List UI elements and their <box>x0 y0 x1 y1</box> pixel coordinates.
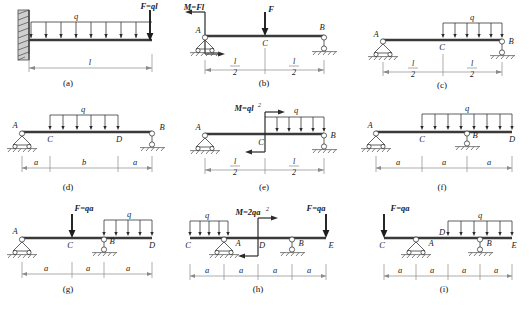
load-label-q: q <box>478 210 483 220</box>
panel-caption-b: (b) <box>244 78 284 88</box>
node-label-A: A <box>372 29 379 39</box>
dimension-label-a1: a <box>396 157 400 167</box>
load-label-q: q <box>205 210 210 220</box>
dimension-label-a4: a <box>494 265 498 275</box>
dimension-label-a3: a <box>487 157 491 167</box>
node-label-E: E <box>327 240 334 250</box>
node-label-B: B <box>486 238 491 248</box>
panel-caption-d: (d) <box>48 182 88 192</box>
panel-i: F=qa C q <box>354 196 529 294</box>
panel-d: q A C D <box>0 100 176 190</box>
dimension-label-a1: a <box>398 265 402 275</box>
node-label-B: B <box>319 22 324 32</box>
svg-text:2: 2 <box>233 168 237 177</box>
svg-text:2: 2 <box>292 68 296 77</box>
svg-text:2: 2 <box>258 102 261 108</box>
dimension-label-l: l <box>89 57 92 67</box>
dimension-fraction-2: l 2 <box>289 157 299 177</box>
node-label-D: D <box>148 240 156 250</box>
pin-support-A <box>7 237 37 258</box>
moment-label-h: M=2qa 2 <box>234 206 269 217</box>
dimension-line-b <box>205 48 324 74</box>
dimension-label-a1: a <box>44 263 48 273</box>
panel-f: q A C <box>354 100 529 190</box>
node-label-C: C <box>67 240 73 250</box>
distributed-load-q <box>441 23 503 38</box>
point-load-label-b: F <box>267 4 274 14</box>
dimension-fraction-2: l 2 <box>289 57 299 77</box>
dimension-label-a2: a <box>239 265 243 275</box>
dimension-label-a2: a <box>430 265 434 275</box>
load-label-q: q <box>470 12 475 22</box>
load-label-q: q <box>81 104 86 114</box>
fixed-wall-support <box>18 10 29 60</box>
svg-text:l: l <box>412 59 415 68</box>
dimension-fraction-1: l 2 <box>230 57 240 77</box>
svg-text:2: 2 <box>266 206 269 212</box>
svg-text:l: l <box>293 157 296 166</box>
point-load-label-a: F=ql <box>139 1 158 11</box>
point-load-label-h: F=qa <box>305 203 326 213</box>
dimension-label-a2: a <box>133 157 137 167</box>
pin-support-A <box>401 237 431 258</box>
svg-text:l: l <box>293 57 296 66</box>
distributed-load-q <box>265 117 326 132</box>
load-label-q: q <box>127 209 132 219</box>
node-label-C: C <box>419 134 425 144</box>
pin-support-A <box>368 39 398 60</box>
dimension-label-a3: a <box>462 265 466 275</box>
dimension-label-a4: a <box>307 265 311 275</box>
distributed-load-q <box>188 221 229 236</box>
panel-caption-h: (h) <box>238 284 278 294</box>
node-label-A: A <box>11 120 18 130</box>
point-load-label-i: F=qa <box>389 203 410 213</box>
distributed-load-q <box>446 221 513 236</box>
panel-caption-c: (c) <box>422 80 462 90</box>
node-label-A: A <box>11 226 18 236</box>
svg-text:l: l <box>234 57 237 66</box>
point-load-label-g: F=qa <box>73 203 94 213</box>
load-label-q: q <box>74 11 79 21</box>
node-label-C: C <box>262 38 268 48</box>
node-label-C: C <box>185 240 191 250</box>
node-label-B: B <box>109 236 114 246</box>
moment-couple-M-ql2 <box>245 109 285 154</box>
panel-g: F=qa q <box>0 196 176 294</box>
node-label-D: D <box>508 134 516 144</box>
panel-caption-i: (i) <box>424 284 464 294</box>
figure-sheet: q F=ql l (a) <box>0 0 529 331</box>
node-label-D: D <box>258 240 266 250</box>
node-label-A: A <box>427 238 434 248</box>
dimension-label-a3: a <box>126 263 130 273</box>
distributed-load-q <box>102 220 153 236</box>
dimension-label-a1: a <box>34 157 38 167</box>
distributed-load-q <box>48 115 119 130</box>
dimension-line-c <box>383 54 502 76</box>
dimension-label-b: b <box>82 157 86 167</box>
node-label-B: B <box>159 122 164 132</box>
dimension-fraction-1: l 2 <box>230 157 240 177</box>
svg-text:2: 2 <box>233 68 237 77</box>
node-label-C: C <box>258 137 264 147</box>
moment-label-e: M=ql 2 <box>233 102 261 113</box>
pin-support-A <box>190 133 220 154</box>
dimension-fraction-1: l 2 <box>408 59 418 79</box>
point-load-F-qa <box>323 214 330 238</box>
load-label-q: q <box>465 103 470 113</box>
panel-e: M=ql 2 q <box>176 100 354 190</box>
point-load-F-ql <box>147 10 154 41</box>
moment-label-b: M=Fl <box>183 2 205 12</box>
node-label-D: D <box>438 227 446 237</box>
roller-support-B <box>140 131 165 151</box>
distributed-load-q <box>420 114 513 130</box>
node-label-A: A <box>194 25 201 35</box>
node-label-B: B <box>298 238 303 248</box>
node-label-E: E <box>510 240 517 250</box>
panel-caption-f: (f) <box>422 182 462 192</box>
svg-text:M=2qa: M=2qa <box>234 207 261 217</box>
dimension-fraction-2: l 2 <box>467 59 477 79</box>
panel-caption-a: (a) <box>48 78 88 88</box>
point-load-F-qa <box>381 214 388 238</box>
dimension-line-h <box>190 264 326 280</box>
moment-couple-M-Fl <box>185 9 225 56</box>
